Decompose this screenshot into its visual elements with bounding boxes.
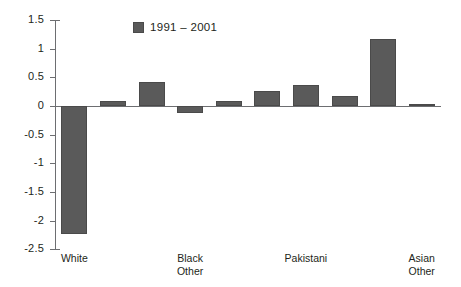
legend-label: 1991 – 2001 — [150, 21, 217, 33]
bar — [332, 96, 358, 106]
y-tick-label: 0 — [0, 100, 44, 111]
bar — [177, 106, 203, 113]
y-tick-mark — [50, 135, 56, 136]
bar — [100, 101, 126, 106]
y-tick-label: -2 — [0, 215, 44, 226]
bar — [216, 101, 242, 106]
y-tick-label: 1 — [0, 43, 44, 54]
y-tick-mark — [50, 77, 56, 78]
chart-legend: 1991 – 2001 — [133, 21, 217, 33]
bar-chart: 1991 – 2001 1.510.50-0.5-1-1.5-2-2.5 Whi… — [0, 0, 461, 287]
bar — [293, 85, 319, 106]
x-axis-category-label: Asian Other — [387, 252, 457, 277]
y-tick-label: 0.5 — [0, 71, 44, 82]
y-tick-label: -2.5 — [0, 243, 44, 254]
y-axis-end-cap — [55, 249, 60, 250]
x-axis-category-label: Pakistani — [271, 252, 341, 265]
y-tick-label: -0.5 — [0, 129, 44, 140]
y-tick-mark — [50, 221, 56, 222]
legend-swatch-icon — [133, 22, 144, 33]
y-tick-mark — [50, 49, 56, 50]
y-tick-label: -1.5 — [0, 186, 44, 197]
bar — [409, 104, 435, 106]
y-tick-label: 1.5 — [0, 14, 44, 25]
bar — [254, 91, 280, 106]
bar — [370, 39, 396, 106]
y-tick-mark — [50, 192, 56, 193]
bar — [139, 82, 165, 106]
y-axis-end-cap — [55, 20, 60, 21]
bar — [61, 106, 87, 234]
y-tick-mark — [50, 106, 56, 107]
x-axis-category-label: White — [39, 252, 109, 265]
y-tick-label: -1 — [0, 157, 44, 168]
x-axis-category-label: Black Other — [155, 252, 225, 277]
zero-baseline — [55, 106, 441, 107]
y-tick-mark — [50, 163, 56, 164]
